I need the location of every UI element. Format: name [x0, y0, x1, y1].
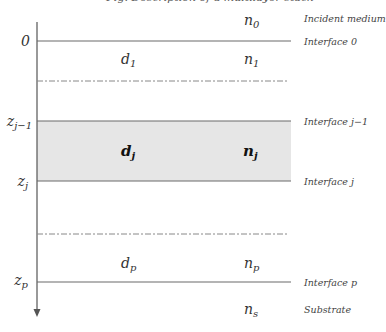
- z-label-j: zj: [0, 174, 28, 191]
- n-1-symbol: n1: [244, 52, 259, 69]
- n-p-symbol: np: [244, 256, 259, 273]
- interface-j-label: Interface j: [304, 177, 354, 187]
- interface-p-label: Interface p: [304, 278, 357, 288]
- d-p-symbol: dp: [121, 256, 136, 273]
- d-j-symbol: dj: [121, 144, 135, 161]
- n-j-symbol: nj: [243, 144, 258, 161]
- z-axis-arrowhead-icon: [34, 309, 41, 317]
- z-label-j-1: zj−1: [2, 114, 32, 131]
- substrate-label: Substrate: [304, 305, 351, 315]
- n-0-symbol: n0: [244, 13, 259, 30]
- d-1-symbol: d1: [121, 52, 136, 69]
- z-label-0: 0: [0, 34, 30, 48]
- interface-j-1-label: Interface j−1: [304, 117, 368, 127]
- n-s-symbol: ns: [244, 302, 258, 319]
- incident-medium-label: Incident medium: [304, 14, 386, 24]
- z-label-p: zp: [0, 273, 28, 290]
- interface-0-label: Interface 0: [304, 37, 357, 47]
